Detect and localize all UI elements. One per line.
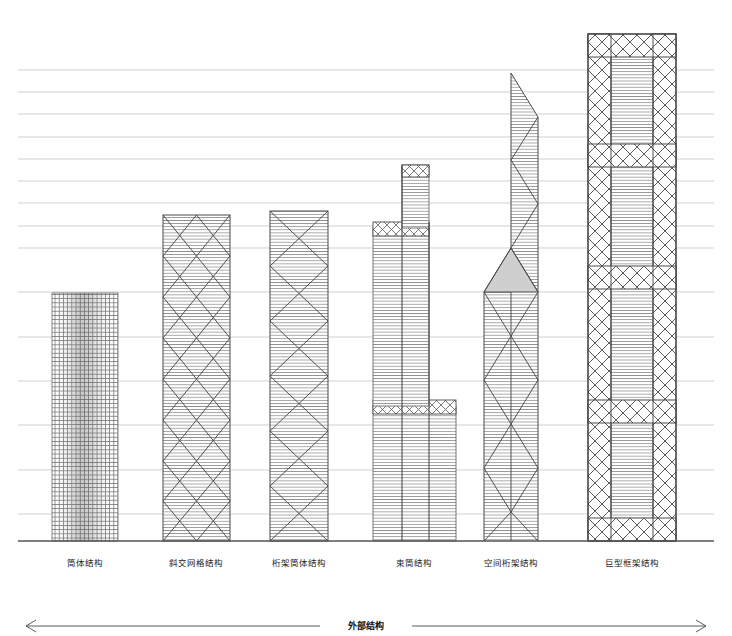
- bar-label-braced-tube-structure: 桁架筒体结构: [272, 558, 326, 568]
- bar-space-truss-structure: [484, 73, 538, 541]
- diagram-canvas: 筒体结构 斜交网格结构 桁架筒体结构 束筒结构 空间桁架结构 巨型框架结构 外部…: [0, 0, 732, 636]
- bar-label-bundled-tube-structure: 束筒结构: [396, 558, 432, 568]
- structural-systems-diagram: 筒体结构 斜交网格结构 桁架筒体结构 束筒结构 空间桁架结构 巨型框架结构 外部…: [0, 0, 732, 636]
- bar-tube-structure: [52, 293, 118, 541]
- bar-label-mega-frame-structure: 巨型框架结构: [605, 558, 659, 568]
- bar-braced-tube-structure: [270, 211, 328, 541]
- bar-bundled-tube-structure: [373, 165, 456, 541]
- bar-label-diagrid-structure: 斜交网格结构: [169, 558, 223, 568]
- axis-label-external-structure: 外部结构: [347, 620, 384, 631]
- bar-label-space-truss-structure: 空间桁架结构: [484, 558, 538, 568]
- bar-label-tube-structure: 筒体结构: [67, 558, 103, 568]
- bar-mega-frame-structure: [588, 34, 676, 541]
- bar-diagrid-structure: [163, 215, 230, 541]
